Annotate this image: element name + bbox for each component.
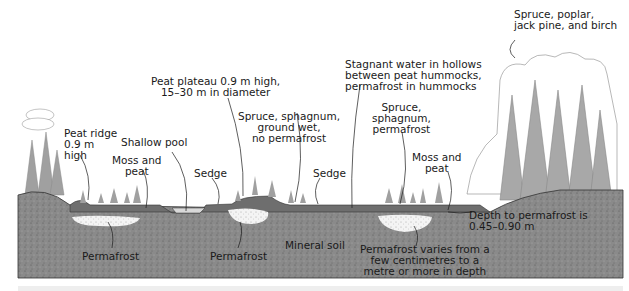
label-mineral-soil: Mineral soil bbox=[285, 240, 345, 251]
label-sedge-right: Sedge bbox=[313, 168, 346, 179]
peat-layer bbox=[70, 196, 490, 213]
label-sedge-left: Sedge bbox=[194, 168, 227, 179]
label-spruce-wet: Spruce, sphagnum, ground wet, no permafr… bbox=[238, 111, 340, 144]
left-forest bbox=[22, 109, 64, 195]
label-permafrost-varies: Permafrost varies from a few centimetres… bbox=[360, 244, 490, 277]
right-forest bbox=[467, 52, 617, 200]
label-shallow-pool: Shallow pool bbox=[121, 137, 187, 148]
label-peat-ridge: Peat ridge 0.9 m high bbox=[64, 128, 117, 161]
label-permafrost-mid: Permafrost bbox=[210, 251, 267, 262]
label-moss-peat-right: Moss and peat bbox=[412, 152, 462, 174]
bottom-strip bbox=[18, 286, 623, 291]
label-moss-peat-left: Moss and peat bbox=[112, 155, 162, 177]
label-depth-to-permafrost: Depth to permafrost is 0.45–0.90 m bbox=[469, 210, 588, 232]
label-permafrost-left: Permafrost bbox=[82, 251, 139, 262]
label-spruce-permafrost: Spruce, sphagnum, permafrost bbox=[372, 102, 431, 135]
label-forest: Spruce, poplar, jack pine, and birch bbox=[514, 9, 617, 31]
mineral-soil bbox=[18, 190, 623, 278]
label-peat-plateau: Peat plateau 0.9 m high, 15–30 m in diam… bbox=[151, 76, 280, 98]
shallow-pool bbox=[172, 208, 205, 213]
label-stagnant-water: Stagnant water in hollows between peat h… bbox=[345, 59, 482, 92]
